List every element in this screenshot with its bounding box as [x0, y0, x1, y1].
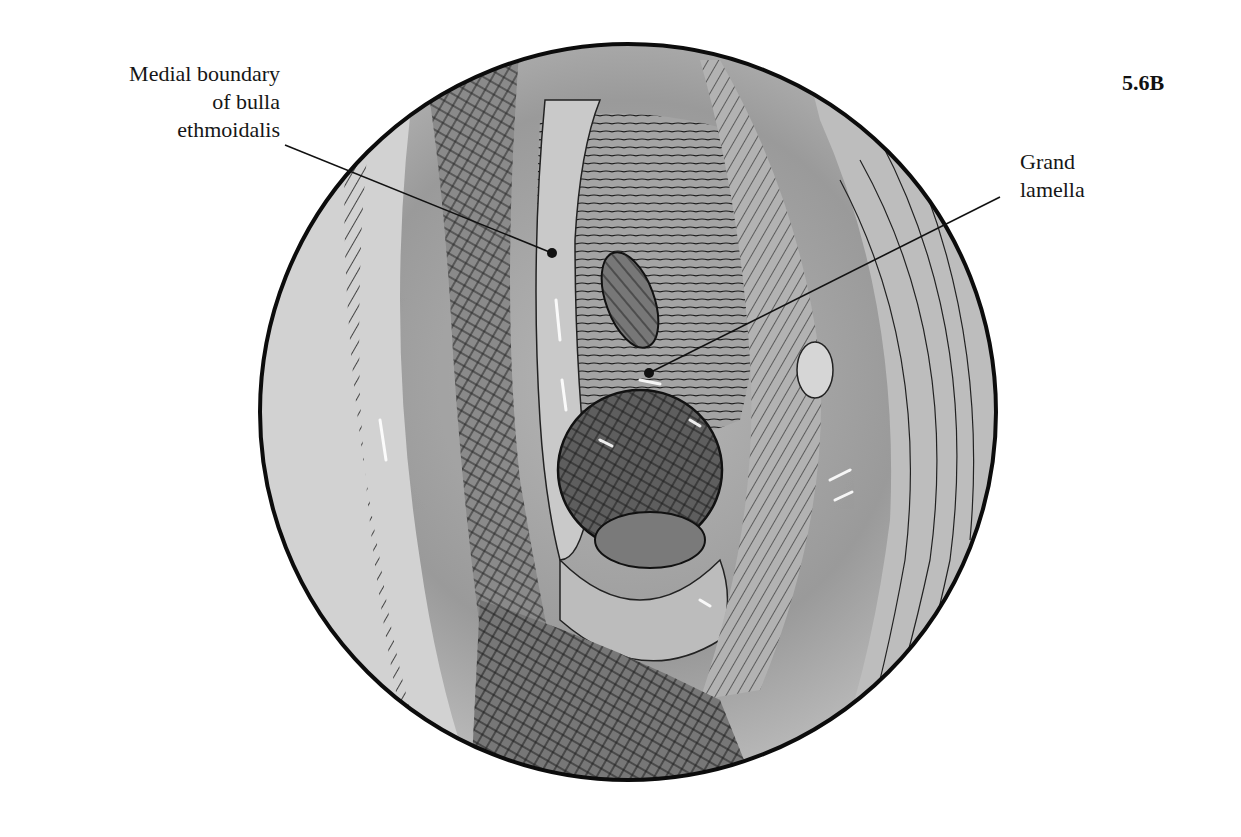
label-grand-lamella: Grand lamella	[1020, 148, 1085, 204]
label-line: lamella	[1020, 176, 1085, 204]
label-line: ethmoidalis	[60, 116, 280, 144]
figure-number: 5.6B	[1122, 70, 1164, 96]
label-medial-boundary-bulla-ethmoidalis: Medial boundary of bulla ethmoidalis	[60, 60, 280, 144]
endoscope-view	[250, 30, 1010, 810]
label-line: of bulla	[60, 88, 280, 116]
label-line: Grand	[1020, 148, 1085, 176]
label-line: Medial boundary	[60, 60, 280, 88]
